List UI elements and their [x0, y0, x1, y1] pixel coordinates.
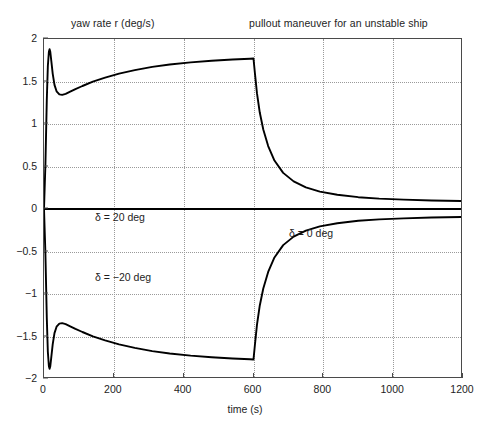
data-series-line [44, 49, 462, 209]
x-tick-label: 400 [174, 383, 192, 395]
y-tick-mark [43, 208, 48, 209]
y-tick-mark [43, 38, 48, 39]
x-tick-label: 800 [314, 383, 332, 395]
x-tick-mark [322, 373, 323, 378]
y-axis-label: yaw rate r (deg/s) [71, 17, 155, 29]
y-tick-label: 1 [3, 117, 37, 129]
y-tick-mark [43, 165, 48, 166]
x-tick-label: 600 [244, 383, 262, 395]
x-tick-mark [113, 373, 114, 378]
x-tick-label: 1000 [380, 383, 403, 395]
y-tick-label: −2 [3, 372, 37, 384]
x-tick-mark [462, 373, 463, 378]
x-tick-label: 0 [40, 383, 46, 395]
y-tick-mark [43, 123, 48, 124]
chart-title: pullout maneuver for an unstable ship [249, 17, 428, 29]
x-tick-mark [43, 373, 44, 378]
y-tick-mark [43, 80, 48, 81]
annotation-delta-positive: δ = 20 deg [95, 211, 145, 223]
y-tick-label: −1.5 [3, 330, 37, 342]
x-tick-mark [253, 373, 254, 378]
x-tick-mark [392, 373, 393, 378]
annotation-delta-negative: δ = −20 deg [95, 271, 151, 283]
annotation-delta-zero: δ = 0 deg [289, 227, 333, 239]
data-series-line [44, 209, 462, 369]
y-tick-label: 0 [3, 202, 37, 214]
y-tick-label: −0.5 [3, 245, 37, 257]
chart-figure: yaw rate r (deg/s) pullout maneuver for … [0, 0, 490, 429]
y-tick-mark [43, 250, 48, 251]
x-tick-label: 1200 [450, 383, 473, 395]
y-tick-label: −1 [3, 287, 37, 299]
y-tick-label: 2 [3, 32, 37, 44]
chart-curves [44, 39, 462, 378]
y-tick-mark [43, 293, 48, 294]
plot-area: δ = 20 deg δ = −20 deg δ = 0 deg [43, 38, 462, 378]
y-tick-mark [43, 335, 48, 336]
y-tick-label: 1.5 [3, 75, 37, 87]
x-axis-label: time (s) [0, 403, 490, 415]
x-tick-label: 200 [104, 383, 122, 395]
x-tick-mark [183, 373, 184, 378]
y-tick-label: 0.5 [3, 160, 37, 172]
